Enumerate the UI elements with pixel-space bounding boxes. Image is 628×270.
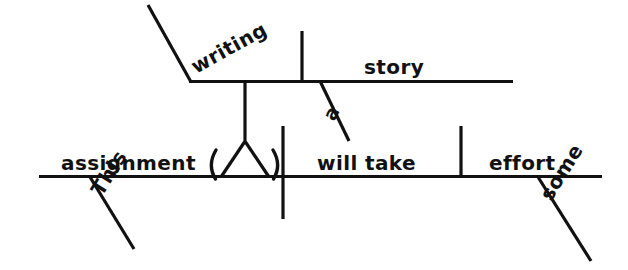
sentence-diagram-canvas: writing story a assignment This will tak… bbox=[0, 0, 628, 270]
word-label-writing: writing bbox=[187, 17, 271, 78]
word-label-will-take: will take bbox=[317, 151, 416, 175]
tripod-leg-left bbox=[221, 142, 245, 177]
tripod-leg-right bbox=[246, 142, 270, 177]
word-label-story: story bbox=[364, 55, 424, 79]
left-parenthesis bbox=[211, 150, 216, 179]
writing-slant-line bbox=[148, 5, 191, 82]
right-parenthesis bbox=[273, 150, 278, 179]
reed-kellogg-diagram: writing story a assignment This will tak… bbox=[0, 0, 628, 270]
word-label-effort: effort bbox=[489, 151, 556, 175]
main-clause-group bbox=[39, 126, 602, 261]
